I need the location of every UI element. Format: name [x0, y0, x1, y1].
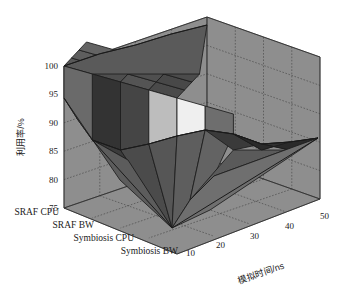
z-tick-90: 90 [49, 118, 59, 128]
z-tick-100: 100 [45, 61, 59, 71]
x-axis-title: 模拟时间/ns [236, 260, 285, 286]
x-tick-20: 20 [216, 240, 226, 250]
x-tick-50: 50 [320, 211, 330, 221]
surface-plot-figure: 100 95 90 85 80 75 利用率/% SRAF CPU SRAF B… [0, 0, 341, 307]
y-tick-symbiosis-bw: Symbiosis BW [121, 246, 178, 256]
z-tick-80: 80 [49, 175, 59, 185]
z-tick-85: 85 [49, 146, 59, 156]
z-axis-ticks: 100 95 90 85 80 75 [45, 61, 59, 213]
y-tick-sraf-cpu: SRAF CPU [14, 207, 59, 217]
x-tick-30: 30 [250, 231, 260, 241]
surface-facet [92, 74, 120, 150]
y-tick-sraf-bw: SRAF BW [53, 220, 94, 230]
plot-svg: 100 95 90 85 80 75 利用率/% SRAF CPU SRAF B… [0, 0, 341, 307]
y-tick-symbiosis-cpu: Symbiosis CPU [74, 233, 135, 243]
surface-facet [149, 90, 177, 144]
z-tick-95: 95 [49, 89, 59, 99]
x-tick-10: 10 [186, 248, 196, 258]
x-tick-40: 40 [285, 221, 295, 231]
z-axis-title: 利用率/% [15, 118, 26, 156]
surface-facet [121, 82, 149, 150]
